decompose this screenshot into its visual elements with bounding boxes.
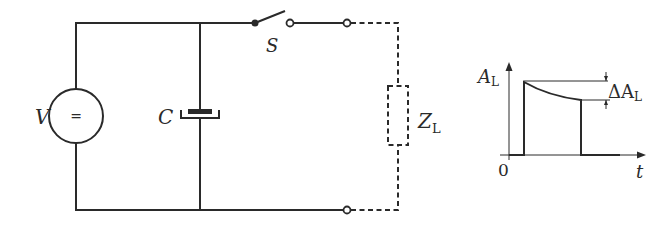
origin-label: 0 <box>498 160 509 180</box>
load-top-dashed-lead <box>351 23 398 86</box>
circuit-wires <box>76 23 343 210</box>
switch: S <box>252 11 294 56</box>
capacitor: C <box>158 105 219 129</box>
load-label: ZL <box>417 109 441 136</box>
y-axis-label: AL <box>476 66 499 89</box>
capacitor-plate-top <box>188 109 212 114</box>
terminal-bottom <box>344 207 351 214</box>
capacitor-label: C <box>158 105 173 129</box>
pulse-waveform <box>509 82 620 155</box>
bottom-wire <box>76 143 343 210</box>
switch-contact <box>287 20 294 27</box>
switch-label: S <box>266 35 278 56</box>
load-bottom-dashed-lead <box>351 145 398 210</box>
delta-annotation: ΔAL <box>608 81 642 104</box>
switch-arm <box>255 11 285 23</box>
load-box <box>388 86 408 145</box>
load-impedance: ZL <box>351 23 441 210</box>
circuit-diagram: = V C S ZL <box>0 0 671 230</box>
x-axis-arrow-icon <box>637 152 646 159</box>
pulse-graph: AL ΔAL 0 t <box>476 62 646 182</box>
top-left-wire <box>76 23 255 89</box>
x-axis-label: t <box>636 161 644 182</box>
terminal-top <box>344 20 351 27</box>
y-axis-arrow-icon <box>506 62 513 71</box>
voltage-source: = V <box>35 89 103 143</box>
source-label: V <box>35 105 52 129</box>
source-symbol: = <box>70 108 82 124</box>
